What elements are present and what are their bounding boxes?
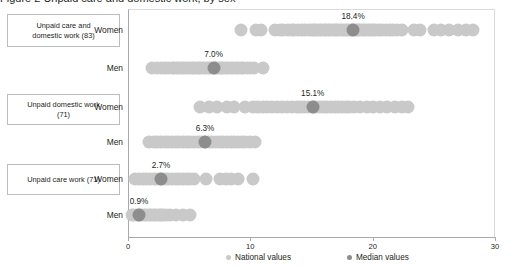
legend-dot-median-icon [347,255,352,260]
figure-title-clipped: Figure 2 Unpaid care and domestic work, … [0,0,521,7]
data-point-median [306,101,319,114]
x-axis-tick-label: 30 [491,242,499,251]
data-point-median [207,62,220,75]
data-point-national [188,173,201,186]
data-point-national [396,24,409,37]
legend-dot-national-icon [226,255,231,260]
chart-root: Figure 2 Unpaid care and domestic work, … [0,0,521,268]
x-axis-tick-label: 10 [246,242,254,251]
data-point-national [234,24,247,37]
median-value-label: 18.4% [341,12,364,21]
data-point-national [256,62,269,75]
data-point-national [200,173,213,186]
x-axis-tick-label: 20 [368,242,376,251]
row-label-women-3: Women [68,174,123,184]
x-axis-tick [128,237,129,241]
figure-title-text: Figure 2 Unpaid care and domestic work, … [0,0,521,4]
data-point-national [466,24,479,37]
data-point-national [249,136,262,149]
row-label-men-2: Men [68,137,123,147]
median-value-label: 0.9% [130,197,149,206]
row-label-men-3: Men [68,210,123,220]
x-axis-tick-label: 0 [126,242,130,251]
row-label-women-2: Women [68,102,123,112]
plot-area [128,9,495,237]
row-label-men-1: Men [68,63,123,73]
legend-label-national: National values [235,253,291,262]
data-point-median [133,209,146,222]
x-axis-tick [250,237,251,241]
median-value-label: 6.3% [196,124,215,133]
x-axis-line [128,237,495,238]
legend-item-national: National values [226,253,291,262]
data-point-national [246,173,259,186]
data-point-national [414,24,427,37]
legend: National values Median values [128,252,495,266]
median-value-label: 15.1% [301,89,324,98]
median-value-label: 2.7% [152,161,171,170]
data-point-national [184,209,197,222]
data-point-national [402,101,415,114]
data-point-median [199,136,212,149]
legend-label-median: Median values [356,253,409,262]
data-point-median [347,24,360,37]
row-label-women-1: Women [68,25,123,35]
data-point-national [232,173,245,186]
x-axis-tick [373,237,374,241]
data-point-national [255,24,268,37]
data-point-median [155,173,168,186]
x-axis-tick [495,237,496,241]
median-value-label: 7.0% [204,50,223,59]
legend-item-median: Median values [347,253,409,262]
